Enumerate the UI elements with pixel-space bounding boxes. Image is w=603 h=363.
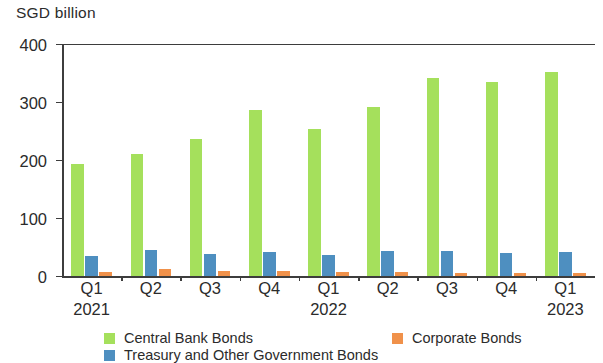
x-axis-year-label: 2022 [299,299,358,320]
x-axis-label: Q12021 [62,278,121,320]
legend-item-central-bank-bonds: Central Bank Bonds [104,330,253,346]
y-axis-tick-label: 300 [19,93,47,112]
bar [545,72,558,276]
bar [85,256,98,276]
x-axis-label: Q2 [358,278,417,299]
x-axis-label: Q4 [477,278,536,299]
chart-legend: Central Bank Bonds Corporate Bonds Treas… [104,330,599,363]
bar [336,272,349,276]
bar [441,251,454,276]
legend-label: Corporate Bonds [412,330,522,346]
x-axis-label: Q12022 [299,278,358,320]
bar-group [536,44,595,276]
bar [308,129,321,276]
bar [381,251,394,276]
bar-group [62,44,121,276]
x-axis-quarter-label: Q4 [258,279,280,297]
x-axis-quarter-label: Q1 [317,279,339,297]
bar-group [358,44,417,276]
bar [145,250,158,276]
bar-group [121,44,180,276]
x-axis-label: Q4 [240,278,299,299]
x-axis-quarter-label: Q3 [436,279,458,297]
x-axis-quarter-label: Q1 [81,279,103,297]
x-axis-label: Q12023 [536,278,595,320]
bar [71,164,84,276]
legend-swatch-icon [104,333,115,344]
bar [559,252,572,276]
bar [395,272,408,276]
x-axis-label: Q2 [121,278,180,299]
bar [277,271,290,276]
bar-group [180,44,239,276]
legend-label: Central Bank Bonds [124,330,253,346]
bar [159,269,172,276]
x-axis-label: Q3 [180,278,239,299]
x-axis-year-label: 2023 [536,299,595,320]
x-axis-quarter-label: Q4 [495,279,517,297]
bar-group [417,44,476,276]
legend-swatch-icon [392,333,403,344]
legend-label: Treasury and Other Government Bonds [124,347,378,363]
bar [131,154,144,276]
bar [322,255,335,276]
bar [204,254,217,276]
bar [218,271,231,276]
legend-swatch-icon [104,350,115,361]
x-axis-quarter-label: Q1 [554,279,576,297]
bar [455,273,468,276]
legend-item-treasury-and-other-government-bonds: Treasury and Other Government Bonds [104,347,378,363]
bar [500,253,513,276]
y-axis-tick-label: 200 [19,151,47,170]
x-axis-quarter-label: Q3 [199,279,221,297]
x-axis-label: Q3 [417,278,476,299]
x-axis-year-label: 2021 [62,299,121,320]
legend-item-corporate-bonds: Corporate Bonds [392,330,522,346]
bar [427,78,440,276]
bar [263,252,276,276]
y-axis-tick-label: 0 [38,267,47,286]
bar-group [240,44,299,276]
x-axis-quarter-label: Q2 [140,279,162,297]
x-axis-labels: Q12021Q2Q3Q4Q12022Q2Q3Q4Q12023 [62,278,595,324]
y-axis-tick-label: 400 [19,35,47,54]
x-axis-quarter-label: Q2 [377,279,399,297]
bar-group [299,44,358,276]
bar [573,273,586,276]
bar [486,82,499,276]
bar-group [477,44,536,276]
bar [367,107,380,276]
bar [249,110,262,276]
plot-area: 0100200300400 [62,44,595,276]
y-axis-tick-label: 100 [19,209,47,228]
bond-market-bar-chart: SGD billion 0100200300400 Q12021Q2Q3Q4Q1… [0,0,603,363]
y-axis-unit-title: SGD billion [16,4,96,22]
bar [99,272,112,276]
bar [190,139,203,276]
bar [514,273,527,276]
